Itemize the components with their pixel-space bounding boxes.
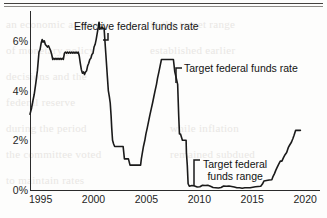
- annotation-leader-line: [103, 33, 108, 40]
- annotation-effective-federal-funds-rate: Effective federal funds rate: [74, 20, 199, 32]
- chart-figure: an economic analysisof monetary policyde…: [0, 0, 327, 218]
- annotation-target-federal-funds-rate: Target federal funds rate: [184, 62, 298, 74]
- annotation-target-federal-funds-range: Target federal funds range: [203, 158, 267, 182]
- annotation-line-2: funds range: [203, 170, 267, 182]
- annotation-leaders: [0, 0, 327, 218]
- annotation-leader-line: [194, 160, 200, 186]
- annotation-leader-line: [176, 68, 182, 83]
- annotation-line-1: Target federal: [203, 158, 267, 170]
